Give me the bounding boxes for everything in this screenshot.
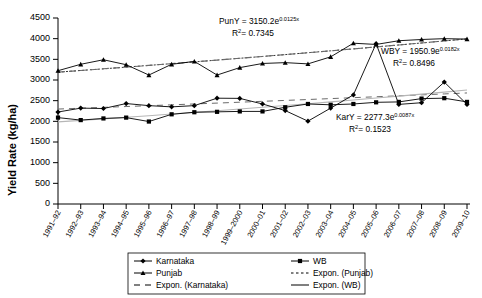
annotation-wb: WBY = 1950.9e0.0182x R2= 0.8496 [381, 46, 460, 68]
x-tick-label: 2004–05 [336, 209, 358, 239]
punjab-eq-exponent: 0.0125x [279, 16, 299, 22]
data-point-marker [397, 100, 401, 104]
y-tick-label: 3500 [30, 54, 50, 64]
x-tick-label: 1998–99 [200, 209, 222, 239]
kar-eq-main: KarY = 2277.3e [336, 112, 395, 122]
karnataka-equation-text: KarY = 2277.3e0.0087x [336, 112, 414, 122]
x-tick-label: 2001–02 [268, 209, 290, 239]
legend-label: Expon. (Punjab) [313, 268, 373, 278]
data-point-marker [192, 110, 196, 114]
x-tick-label: 2009–10 [450, 209, 472, 239]
data-point-marker [124, 116, 128, 120]
data-point-marker [260, 101, 265, 106]
kar-eq-exponent: 0.0087x [394, 112, 414, 118]
data-point-marker [351, 92, 356, 97]
kar-r2-rest: = 0.1523 [358, 124, 391, 134]
y-tick-label: 4000 [30, 33, 50, 43]
legend-label: Karnataka [156, 256, 195, 266]
legend-label: Expon. (WB) [313, 280, 361, 290]
data-point-marker [79, 118, 83, 122]
x-tick-label: 1993–94 [86, 209, 108, 239]
x-tick-label: 2006–07 [382, 209, 404, 239]
data-point-marker [147, 119, 151, 123]
y-tick-label: 4500 [30, 12, 50, 22]
punjab-r2-text: R2= 0.7345 [232, 28, 274, 38]
y-axis-ticks: 450040003500300025002000150010005000 [30, 12, 58, 208]
data-point-marker [56, 116, 60, 120]
data-point-marker [238, 109, 242, 113]
yield-rate-line-chart: Yield Rate (kg/ha) 450040003500300025002… [0, 0, 482, 298]
data-point-marker [442, 96, 446, 100]
y-tick-label: 2000 [30, 116, 50, 126]
wb-r2-rest: = 0.8496 [402, 58, 435, 68]
chart-legend: KarnatakaWBPunjabExpon. (Punjab)Expon. (… [128, 253, 373, 294]
data-point-marker [214, 96, 219, 101]
wb-r2-text: R2= 0.8496 [393, 58, 435, 68]
data-point-marker [78, 106, 83, 111]
data-point-marker [215, 110, 219, 114]
chart-root: Yield Rate (kg/ha) 450040003500300025002… [0, 0, 482, 298]
x-tick-label: 2002–03 [291, 209, 313, 239]
data-point-marker [306, 102, 310, 106]
punjab-eq-main: PunY = 3150.2e [219, 16, 279, 26]
x-tick-label: 1999–2000 [219, 209, 245, 247]
data-point-marker [328, 54, 333, 59]
data-point-marker [170, 112, 174, 116]
data-point-marker [305, 119, 310, 124]
y-tick-label: 0 [45, 198, 50, 208]
y-tick-label: 2500 [30, 95, 50, 105]
wb-eq-exponent: 0.0182x [440, 46, 460, 52]
x-tick-label: 2005–06 [359, 209, 381, 239]
data-point-marker [283, 105, 287, 109]
data-point-marker [146, 73, 151, 78]
x-tick-label: 1997–98 [177, 209, 199, 239]
legend-label: WB [313, 256, 327, 266]
data-point-marker [124, 101, 129, 106]
data-point-marker [146, 103, 151, 108]
data-point-marker [55, 109, 60, 114]
series-wb [56, 96, 469, 124]
data-point-marker [260, 109, 264, 113]
annotation-karnataka: KarY = 2277.3e0.0087x R2= 0.1523 [336, 112, 414, 134]
legend-label: Expon. (Karnataka) [156, 280, 228, 290]
x-tick-label: 1992–93 [64, 209, 86, 239]
data-point-marker [374, 100, 378, 104]
x-tick-label: 2003–04 [314, 209, 336, 239]
y-tick-label: 1000 [30, 157, 50, 167]
data-point-marker [101, 116, 105, 120]
wb-equation-text: WBY = 1950.9e0.0182x [381, 46, 460, 56]
x-tick-label: 2007–08 [404, 209, 426, 239]
x-tick-label: 2000–01 [245, 209, 267, 239]
x-tick-label: 2008–09 [427, 209, 449, 239]
data-point-marker [351, 102, 355, 106]
y-tick-label: 1500 [30, 136, 50, 146]
data-point-marker [419, 97, 423, 101]
wb-eq-main: WBY = 1950.9e [381, 46, 440, 56]
punjab-equation-text: PunY = 3150.2e0.0125x [219, 16, 299, 26]
punjab-r2-rest: = 0.7345 [241, 28, 274, 38]
data-point-marker [101, 106, 106, 111]
legend-label: Punjab [156, 268, 182, 278]
data-point-marker [237, 96, 242, 101]
x-tick-label: 1991–92 [41, 209, 63, 239]
x-tick-label: 1996–97 [155, 209, 177, 239]
y-tick-label: 500 [35, 178, 50, 188]
data-point-marker [298, 259, 302, 263]
data-point-marker [101, 57, 106, 62]
y-tick-label: 3000 [30, 74, 50, 84]
x-tick-label: 1995–96 [132, 209, 154, 239]
x-axis-ticks: 1991–921992–931993–941994–951995–961996–… [41, 204, 472, 247]
karnataka-r2-text: R2= 0.1523 [349, 124, 391, 134]
y-axis-title: Yield Rate (kg/ha) [6, 104, 18, 196]
x-tick-label: 1994–95 [109, 209, 131, 239]
annotation-punjab: PunY = 3150.2e0.0125x R2= 0.7345 [219, 16, 299, 38]
data-point-marker [329, 103, 333, 107]
data-point-marker [465, 100, 469, 104]
